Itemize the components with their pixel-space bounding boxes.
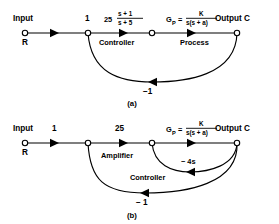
arrow-rate-feedback-b [186, 168, 195, 176]
input-label-b: Input [13, 124, 33, 133]
input-node-label-b: R [22, 148, 28, 157]
amplifier-gain-b: 25 [115, 124, 125, 133]
figure-root: Input R 1 25 s + 1 s + 5 Controller G P … [0, 0, 279, 224]
amplifier-block-label-b: Amplifier [101, 151, 133, 160]
node-summing-b[interactable] [85, 140, 90, 145]
node-mid-b[interactable] [149, 140, 154, 145]
arrow-input-branch-b [50, 139, 59, 147]
arrow-process-branch-b [187, 139, 196, 147]
signal-flow-graph-b: Input R 1 25 Amplifier G P = K s(s + a) … [0, 0, 279, 224]
controller-block-label-b: Controller [130, 173, 165, 182]
caption-b: (b) [127, 211, 137, 220]
output-label-b: Output C [215, 124, 250, 133]
caption-block-b: (b) [0, 206, 279, 224]
input-branch-gain-b: 1 [52, 124, 57, 133]
arrow-amplifier-branch-b [119, 139, 128, 147]
node-output-b[interactable] [234, 140, 239, 145]
node-input-b[interactable] [22, 140, 27, 145]
process-gain-numerator-b: K [199, 120, 204, 127]
process-gain-denominator-b: s(s + a) [186, 129, 208, 137]
process-gain-equals-b: = [178, 125, 183, 134]
arrow-unity-feedback-b [140, 189, 149, 197]
rate-feedback-gain-b: − 4s [181, 157, 196, 166]
process-gain-subscript-b: P [172, 130, 176, 136]
